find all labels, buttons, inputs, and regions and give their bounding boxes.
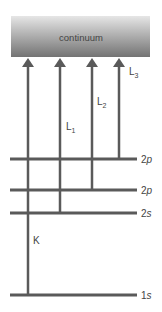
transition-label-L2: L2 xyxy=(97,96,107,109)
continuum-label: continuum xyxy=(59,32,103,43)
arrowhead-icon xyxy=(113,58,125,67)
transition-label-L3: L3 xyxy=(129,66,139,79)
level-label-1s: 1s xyxy=(141,290,152,301)
arrow-L2 xyxy=(86,58,98,190)
arrow-L3 xyxy=(113,58,125,159)
arrowhead-icon xyxy=(86,58,98,67)
level-label-2p-upper: 2p xyxy=(141,154,153,165)
arrow-K xyxy=(22,58,34,295)
energy-level-diagram: continuum 2p 2p 2s 1s K L1 L2 L3 xyxy=(0,0,162,312)
transition-label-L1: L1 xyxy=(66,121,76,134)
level-label-2p-lower: 2p xyxy=(141,185,153,196)
transition-label-K: K xyxy=(33,235,40,246)
continuum-band: continuum xyxy=(11,16,150,57)
level-label-2s: 2s xyxy=(141,208,152,219)
transition-arrows xyxy=(22,58,125,295)
arrowhead-icon xyxy=(54,58,66,67)
arrowhead-icon xyxy=(22,58,34,67)
